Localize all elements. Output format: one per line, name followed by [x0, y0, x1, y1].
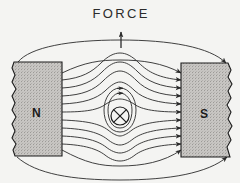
magnet-south-label: S: [200, 107, 208, 121]
diagram-canvas: [0, 0, 240, 183]
magnet-north-label: N: [32, 106, 41, 120]
magnetic-field-diagram: FORCE: [0, 0, 240, 183]
current-into-page-icon: [111, 107, 129, 125]
